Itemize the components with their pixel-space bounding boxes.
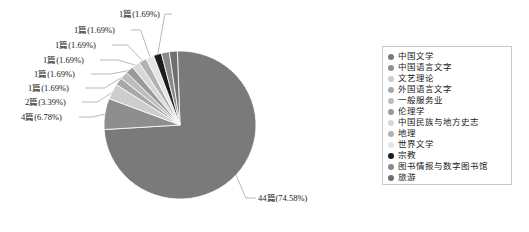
legend-item-label: 外国语言文字	[398, 84, 452, 95]
legend-swatch-icon	[388, 54, 394, 60]
legend-swatch-icon	[388, 120, 394, 126]
legend-item-label: 中国语言文字	[398, 62, 452, 73]
pie-label-6: 2篇(3.39%)	[25, 98, 66, 107]
leader-line	[112, 45, 143, 61]
legend-swatch-icon	[388, 65, 394, 71]
leader-line	[100, 60, 136, 65]
pie-chart-figure: 1篇(1.69%) 1篇(1.69%) 1篇(1.69%) 1篇(1.69%) …	[0, 0, 529, 232]
pie-label-2: 1篇(1.69%)	[55, 41, 96, 50]
legend-swatch-icon	[388, 98, 394, 104]
legend-item[interactable]: 中国民族与地方史志	[388, 117, 507, 128]
legend-swatch-icon	[388, 153, 394, 159]
pie-label-7: 4篇(6.78%)	[21, 113, 62, 122]
legend-item[interactable]: 中国语言文字	[388, 62, 507, 73]
legend-item[interactable]: 伦理学	[388, 106, 507, 117]
pie-label-4: 1篇(1.69%)	[34, 70, 75, 79]
pie-label-8: 44篇(74.58%)	[258, 194, 307, 203]
leader-line	[236, 174, 256, 198]
leader-line	[91, 70, 130, 74]
legend: 中国文学中国语言文字文艺理论外国语言文字一般服务业伦理学中国民族与地方史志地理世…	[382, 46, 512, 185]
legend-swatch-icon	[388, 131, 394, 137]
legend-item[interactable]: 地理	[388, 128, 507, 139]
legend-item-label: 旅游	[398, 172, 416, 183]
leader-line	[158, 14, 172, 55]
pie-label-3: 1篇(1.69%)	[43, 56, 84, 65]
legend-item-label: 世界文学	[398, 139, 434, 150]
legend-item[interactable]: 世界文学	[388, 139, 507, 150]
pie-label-1: 1篇(1.69%)	[74, 26, 115, 35]
legend-item[interactable]: 图书情报与数字图书馆	[388, 161, 507, 172]
legend-item-label: 地理	[398, 128, 416, 139]
pie-label-5: 1篇(1.69%)	[28, 84, 69, 93]
legend-item-label: 宗教	[398, 150, 416, 161]
legend-item[interactable]: 一般服务业	[388, 95, 507, 106]
legend-item-label: 中国民族与地方史志	[398, 117, 479, 128]
legend-item-label: 中国文学	[398, 51, 434, 62]
legend-item[interactable]: 中国文学	[388, 51, 507, 62]
legend-swatch-icon	[388, 76, 394, 82]
pie-label-0: 1篇(1.69%)	[119, 10, 160, 19]
leader-line	[79, 114, 106, 117]
legend-item-label: 图书情报与数字图书馆	[398, 161, 488, 172]
legend-item[interactable]: 旅游	[388, 172, 507, 183]
legend-swatch-icon	[388, 164, 394, 170]
legend-item[interactable]: 外国语言文字	[388, 84, 507, 95]
legend-item-label: 一般服务业	[398, 95, 443, 106]
legend-swatch-icon	[388, 142, 394, 148]
legend-item-label: 文艺理论	[398, 73, 434, 84]
legend-swatch-icon	[388, 175, 394, 181]
legend-item[interactable]: 文艺理论	[388, 73, 507, 84]
legend-item-label: 伦理学	[398, 106, 425, 117]
legend-swatch-icon	[388, 87, 394, 93]
pie-slices-group	[104, 51, 256, 199]
legend-swatch-icon	[388, 109, 394, 115]
leader-line	[131, 30, 150, 58]
legend-item[interactable]: 宗教	[388, 150, 507, 161]
